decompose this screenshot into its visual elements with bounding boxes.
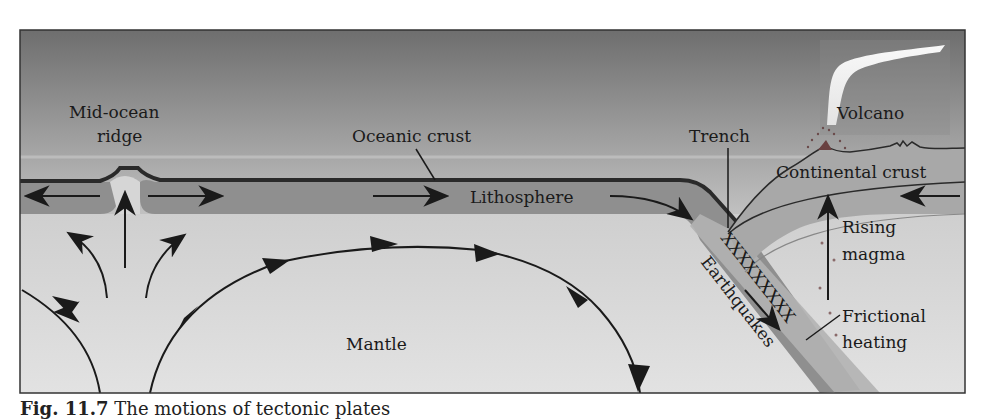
lithosphere-left: [20, 182, 118, 214]
label-mid-ocean-ridge-2: ridge: [97, 126, 142, 146]
caption-figure-number: Fig. 11.7: [20, 398, 109, 419]
label-volcano: Volcano: [836, 103, 904, 123]
figure-caption: Fig. 11.7 The motions of tectonic plates: [20, 398, 390, 419]
label-mid-ocean-ridge: Mid-ocean: [69, 102, 159, 122]
label-rising-magma-2: magma: [842, 244, 905, 264]
label-lithosphere: Lithosphere: [470, 187, 574, 207]
label-oceanic-crust: Oceanic crust: [352, 126, 471, 146]
caption-text: The motions of tectonic plates: [114, 398, 390, 419]
label-rising-magma: Rising: [842, 217, 896, 237]
label-frictional-heating: Frictional: [842, 306, 926, 326]
label-frictional-heating-2: heating: [842, 332, 907, 352]
label-trench: Trench: [689, 126, 750, 146]
label-continental-crust: Continental crust: [776, 162, 927, 182]
label-mantle: Mantle: [346, 334, 407, 354]
